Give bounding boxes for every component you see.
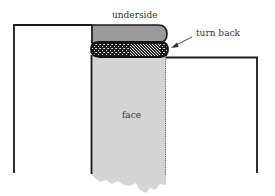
underside-band	[92, 25, 167, 43]
arrow-head-icon	[171, 43, 179, 49]
left-panel-outline	[14, 25, 92, 173]
right-panel-outline	[166, 58, 257, 174]
face-strip	[92, 55, 166, 193]
underside-label: underside	[112, 10, 158, 20]
turn-back-label: turn back	[196, 28, 240, 38]
face-label: face	[122, 110, 141, 120]
roll-highlight	[130, 44, 160, 56]
